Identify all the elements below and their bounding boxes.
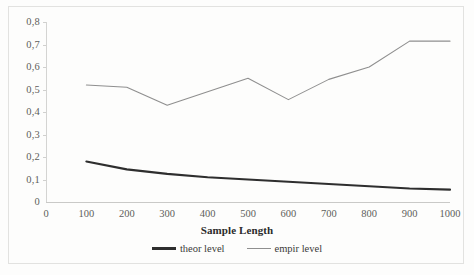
legend-label-empir: empir level [275,243,323,254]
plot-area [46,22,450,202]
y-tick-label: 0,1 [10,175,40,185]
series-line-empir-level [86,41,450,105]
series-line-theor-level [86,162,450,190]
legend-line-icon-theor [152,247,176,249]
y-tick-label: 0,6 [10,62,40,72]
legend-item-empir-level: empir level [247,243,323,254]
x-tick-label: 500 [228,208,268,219]
y-tick-label: 0 [10,197,40,207]
x-tick-label: 200 [107,208,147,219]
legend-line-icon-empir [247,248,271,249]
x-tick-label: 400 [188,208,228,219]
y-tick-label: 0,2 [10,152,40,162]
x-tick-label: 1000 [430,208,470,219]
x-tick-label: 700 [309,208,349,219]
y-tick-label: 0,4 [10,107,40,117]
x-tick-label: 900 [390,208,430,219]
y-tick-label: 0,3 [10,130,40,140]
x-tick-label: 800 [349,208,389,219]
x-axis-line [46,202,450,203]
chart-legend: theor level empir level [0,243,474,254]
y-tick-label: 0,7 [10,40,40,50]
x-axis-title: Sample Length [0,224,474,236]
x-tick-label: 300 [147,208,187,219]
series-lines [46,22,450,202]
x-tick-label: 100 [66,208,106,219]
x-tick-label: 600 [268,208,308,219]
y-tick-label: 0,8 [10,17,40,27]
legend-label-theor: theor level [180,243,225,254]
legend-item-theor-level: theor level [152,243,225,254]
x-axis-tick-labels: 01002003004005006007008009001000 [0,208,474,224]
line-chart-figure: 00,10,20,30,40,50,60,70,8 01002003004005… [0,0,474,275]
y-tick-label: 0,5 [10,85,40,95]
x-tick-label: 0 [26,208,66,219]
